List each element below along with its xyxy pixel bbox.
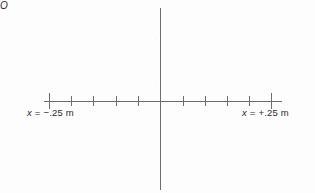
axis-tick-minor (138, 96, 139, 106)
right-endpoint-label: x = +.25 m (242, 107, 289, 118)
axis-tick-minor (249, 96, 250, 106)
left-endpoint-label: x = −.25 m (27, 107, 74, 118)
horizontal-axis (44, 101, 282, 102)
right-label-value: = +.25 m (247, 107, 289, 118)
axis-tick-minor (205, 96, 206, 106)
left-label-value: = −.25 m (32, 107, 74, 118)
axis-tick-minor (116, 96, 117, 106)
vertical-axis (160, 8, 161, 190)
axis-tick-minor (71, 96, 72, 106)
origin-label: O (0, 0, 315, 11)
axis-tick-minor (183, 96, 184, 106)
axis-tick-minor (227, 96, 228, 106)
number-line-figure: O x = −.25 m x = +.25 m (0, 0, 315, 193)
axis-tick-minor (93, 96, 94, 106)
paper-grain-texture (0, 0, 315, 193)
